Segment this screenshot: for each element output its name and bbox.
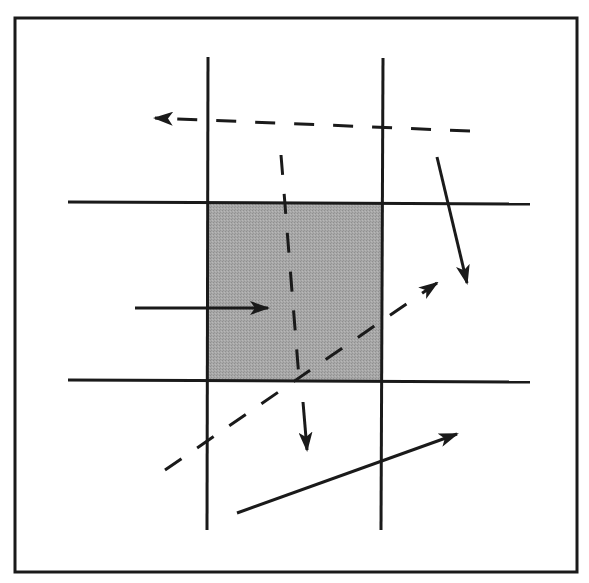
dashed-top-leftward-arrow — [155, 118, 470, 131]
top-boundary-line — [68, 202, 530, 204]
shaded-clip-window — [208, 202, 382, 380]
clipping-diagram — [0, 0, 589, 583]
solid-bottom-rightward-arrow — [237, 434, 457, 513]
solid-short-downward-arrow — [303, 402, 307, 450]
left-boundary-line — [207, 57, 208, 530]
bottom-boundary-line — [68, 380, 530, 382]
solid-right-downward-arrow — [437, 157, 467, 283]
